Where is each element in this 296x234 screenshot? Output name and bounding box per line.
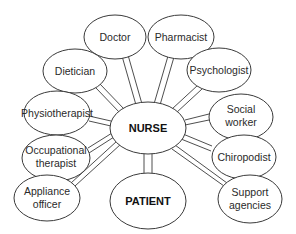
connector-nurse-social-worker [185, 114, 209, 125]
node-label: Physiotherapist [21, 107, 93, 119]
connector-nurse-dietician [96, 84, 124, 113]
svg-text:Appliance: Appliance [24, 185, 70, 197]
node-occupational-therapist: Occupational therapist [22, 135, 90, 181]
svg-text:worker: worker [224, 116, 257, 128]
connector-nurse-pharmacist [154, 56, 174, 105]
nurse-label: NURSE [129, 122, 168, 134]
node-dietician: Dietician [43, 49, 107, 93]
svg-text:Dietician: Dietician [55, 65, 95, 77]
node-label-line-2: agencies [229, 199, 271, 211]
svg-text:Occupational: Occupational [25, 144, 86, 156]
node-label-line-1: Occupational [25, 144, 86, 156]
node-label-line-1: Appliance [24, 185, 70, 197]
svg-text:Social: Social [227, 103, 256, 115]
connector-nurse-patient [144, 153, 152, 173]
svg-text:Doctor: Doctor [100, 31, 131, 43]
node-label: Doctor [100, 31, 131, 43]
connector-nurse-chiropodist [181, 134, 212, 151]
node-label-line-1: Social [227, 103, 256, 115]
node-label-line-1: Support [232, 186, 269, 198]
node-label: Dietician [55, 65, 95, 77]
connector-nurse-psychologist [172, 85, 202, 113]
node-nurse: NURSE [110, 102, 186, 154]
svg-text:therapist: therapist [36, 157, 76, 169]
svg-text:Physiotherapist: Physiotherapist [21, 107, 93, 119]
svg-text:Chiropodist: Chiropodist [217, 151, 270, 163]
node-patient: PATIENT [110, 173, 186, 229]
svg-text:PATIENT: PATIENT [125, 195, 171, 207]
node-psychologist: Psychologist [187, 48, 251, 92]
node-appliance-officer: Appliance officer [14, 175, 80, 221]
node-chiropodist: Chiropodist [212, 135, 276, 179]
node-physiotherapist: Physiotherapist [21, 91, 93, 135]
svg-text:officer: officer [33, 198, 62, 210]
node-label-line-2: officer [33, 198, 62, 210]
svg-text:agencies: agencies [229, 199, 271, 211]
node-label-line-2: worker [224, 116, 257, 128]
node-social-worker: Social worker [209, 94, 273, 140]
node-label: Psychologist [190, 64, 249, 76]
svg-text:Psychologist: Psychologist [190, 64, 249, 76]
care-team-diagram: Doctor Pharmacist Dietician Psychologist… [0, 0, 296, 234]
patient-label: PATIENT [125, 195, 171, 207]
svg-text:NURSE: NURSE [129, 122, 168, 134]
node-label: Chiropodist [217, 151, 270, 163]
connector-nurse-doctor [122, 55, 142, 105]
svg-text:Pharmacist: Pharmacist [155, 31, 208, 43]
node-label: Pharmacist [155, 31, 208, 43]
connector-nurse-occupational-therapist [88, 133, 114, 153]
node-label-line-2: therapist [36, 157, 76, 169]
node-support-agencies: Support agencies [218, 175, 282, 223]
svg-text:Support: Support [232, 186, 269, 198]
